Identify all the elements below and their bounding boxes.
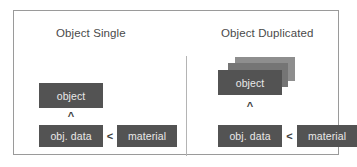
panel-title-object-single: Object Single <box>56 27 126 39</box>
node-material-single: material <box>117 125 177 147</box>
node-object-duplicated: object <box>218 70 282 95</box>
node-obj-data-duplicated: obj. data <box>218 125 282 147</box>
link-glyph-single: ^ <box>39 109 103 122</box>
node-material-duplicated: material <box>297 125 357 147</box>
node-object-single: object <box>39 83 103 108</box>
relation-glyph-single: < <box>103 125 117 147</box>
relation-glyph-duplicated: < <box>282 125 297 147</box>
node-obj-data-single: obj. data <box>39 125 103 147</box>
panel-title-object-duplicated: Object Duplicated <box>221 27 313 39</box>
link-glyph-duplicated: ^ <box>218 99 282 112</box>
diagram-frame: Object Single object ^ obj. data < mater… <box>13 10 339 155</box>
panel-divider <box>186 56 187 156</box>
